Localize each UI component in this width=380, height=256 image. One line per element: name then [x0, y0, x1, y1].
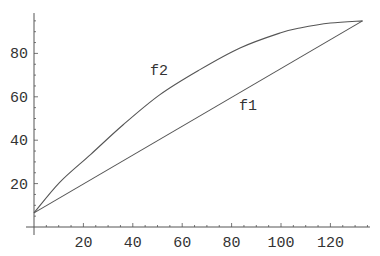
curve-f1 [34, 21, 363, 213]
series-group [34, 21, 363, 213]
x-tick-label: 60 [173, 235, 191, 252]
line-chart: 2040608010012020406080 f1f2 [0, 0, 380, 256]
y-tick-label: 80 [10, 46, 28, 63]
x-tick-label: 80 [223, 235, 241, 252]
x-tick-label: 20 [74, 235, 92, 252]
x-tick-label: 100 [267, 235, 294, 252]
y-tick-label: 40 [10, 133, 28, 150]
x-tick-label: 120 [317, 235, 344, 252]
label-f1: f1 [239, 98, 257, 115]
label-f2: f2 [150, 63, 168, 80]
axis-ticks [34, 21, 367, 227]
curve-labels: f1f2 [150, 63, 257, 115]
y-tick-label: 20 [10, 177, 28, 194]
tick-labels: 2040608010012020406080 [10, 46, 344, 252]
x-tick-label: 40 [124, 235, 142, 252]
y-tick-label: 60 [10, 90, 28, 107]
